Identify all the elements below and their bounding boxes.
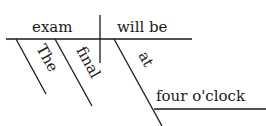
object-word: four o'clock — [156, 87, 246, 105]
preposition-word: at — [135, 48, 158, 70]
modifier-word-the: The — [33, 41, 63, 75]
subject-word: exam — [32, 18, 73, 36]
sentence-diagram: exam will be The final at four o'clock — [0, 0, 266, 126]
preposition-line — [114, 39, 162, 126]
verb-word: will be — [117, 18, 168, 36]
